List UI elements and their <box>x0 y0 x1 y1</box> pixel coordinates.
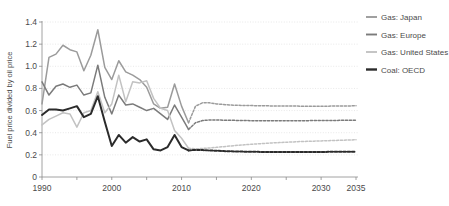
series-line-historical <box>42 75 189 148</box>
y-tick-label: 0 <box>32 172 37 182</box>
x-tick-label: 2010 <box>172 183 191 193</box>
series-1 <box>42 30 356 123</box>
x-tick-label: 2020 <box>242 183 261 193</box>
x-tick-label: 1990 <box>33 183 52 193</box>
series-line-projection <box>189 140 356 149</box>
x-tick-label: 2000 <box>102 183 121 193</box>
series-line-projection <box>189 150 356 152</box>
legend-label: Gas: United States <box>381 48 448 57</box>
legend-item-4[interactable]: Coal: OECD <box>366 66 425 75</box>
line-chart: 00.20.40.60.81.01.21.4199020002010202020… <box>0 0 449 206</box>
y-tick-label: 1.4 <box>25 17 37 27</box>
legend-item-2[interactable]: Gas: Europe <box>366 31 426 40</box>
series-2 <box>42 65 356 129</box>
y-tick-label: 0.8 <box>25 83 37 93</box>
legend-label: Gas: Japan <box>381 13 422 22</box>
y-tick-label: 1.2 <box>25 39 37 49</box>
y-axis-title: Fuel price divided by oil price <box>5 52 14 149</box>
legend-item-3[interactable]: Gas: United States <box>366 48 448 57</box>
chart-container: 00.20.40.60.81.01.21.4199020002010202020… <box>0 0 449 206</box>
legend-label: Gas: Europe <box>381 31 426 40</box>
legend-label: Coal: OECD <box>381 66 425 75</box>
series-line-historical <box>42 30 189 123</box>
x-tick-label: 2030 <box>312 183 331 193</box>
y-tick-label: 0.4 <box>25 128 37 138</box>
series-3 <box>42 75 356 149</box>
y-tick-label: 0.6 <box>25 106 37 116</box>
x-tick-label: 2035 <box>347 183 366 193</box>
legend-item-1[interactable]: Gas: Japan <box>366 13 422 22</box>
y-tick-label: 1.0 <box>25 61 37 71</box>
y-tick-label: 0.2 <box>25 150 37 160</box>
series-line-historical <box>42 65 189 129</box>
series-line-projection <box>189 120 356 129</box>
